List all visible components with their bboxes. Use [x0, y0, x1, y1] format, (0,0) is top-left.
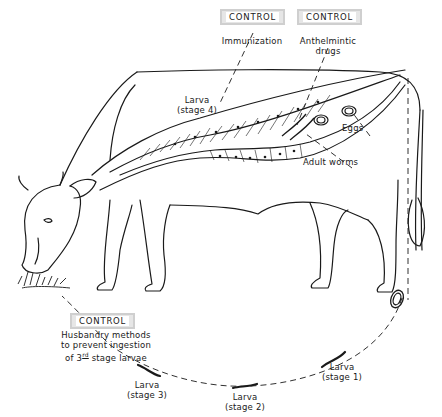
- control-badge-immunization: CONTROL: [220, 9, 285, 25]
- intestine-outline-bottom: [100, 85, 405, 190]
- cow-tail: [415, 110, 423, 250]
- eggs-label: Eggs: [342, 123, 363, 133]
- larva-stage1-label: Larva (stage 1): [317, 362, 367, 382]
- husbandry-label-line3: of 3rd stage larvae: [56, 350, 156, 363]
- grass-illustration: [18, 272, 70, 288]
- cow-ear: [70, 179, 96, 198]
- husbandry-label: Husbandry methods to prevent ingestion o…: [56, 330, 156, 363]
- larva-stage3-label: Larva (stage 3): [122, 380, 172, 400]
- larva-stage2-illustration: [233, 384, 257, 388]
- larva-stage4-label: Larva (stage 4): [172, 95, 222, 115]
- immunization-label: Immunization: [216, 36, 288, 46]
- control-badge-anthelmintic: CONTROL: [297, 9, 362, 25]
- cow-hind-leg-right: [368, 180, 398, 292]
- anthelmintic-pointer: [297, 48, 328, 125]
- anthelmintic-label: Anthelmintic drugs: [296, 36, 360, 56]
- adult-worms-label: Adult worms: [303, 157, 358, 167]
- cow-eye: [44, 219, 52, 223]
- cow-front-leg-left: [97, 200, 132, 290]
- cow-belly-outline: [170, 202, 368, 220]
- cow-neck-outline: [60, 72, 137, 185]
- cow-front-leg-right: [140, 200, 170, 291]
- cow-head-outline: [22, 185, 81, 273]
- life-cycle-diagram: CONTROL Immunization CONTROL Anthelminti…: [0, 0, 442, 417]
- cow-horn-right: [60, 172, 63, 185]
- cow-horn-left: [19, 176, 28, 190]
- larva-stage2-label: Larva (stage 2): [220, 392, 270, 412]
- control-badge-husbandry: CONTROL: [70, 313, 135, 329]
- cow-hind-leg-left: [310, 203, 348, 288]
